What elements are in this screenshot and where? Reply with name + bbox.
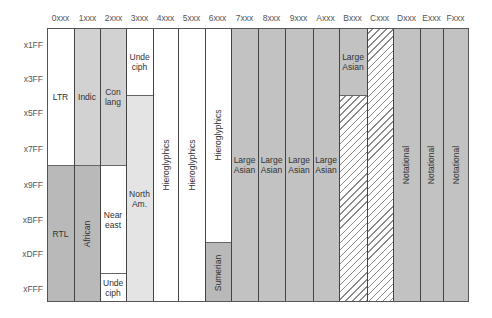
col-header-8: 8xxx [258, 13, 285, 23]
col-header-d: Dxxx [393, 13, 420, 23]
row-label-x5ff: x5FF [24, 108, 43, 118]
row-label-xdff: xDFF [22, 249, 43, 259]
col-header-1: 1xxx [74, 13, 101, 23]
col-header-b: Bxxx [339, 13, 366, 23]
row-label-xbff: xBFF [23, 215, 43, 225]
col-header-e: Exxx [418, 13, 445, 23]
row-label-x9ff: x9FF [24, 180, 43, 190]
row-label-xfff: xFFF [23, 284, 43, 294]
row-label-x7ff: x7FF [24, 144, 43, 154]
col-header-6: 6xxx [204, 13, 231, 23]
row-label-x1ff: x1FF [24, 40, 43, 50]
col-header-0: 0xxx [47, 13, 74, 23]
row-label-x3ff: x3FF [24, 74, 43, 84]
col-header-a: Axxx [312, 13, 339, 23]
grid-frame [47, 28, 469, 302]
col-header-2: 2xxx [100, 13, 127, 23]
col-header-5: 5xxx [178, 13, 205, 23]
col-header-3: 3xxx [126, 13, 153, 23]
col-header-9: 9xxx [285, 13, 312, 23]
col-header-4: 4xxx [152, 13, 179, 23]
col-header-c: Cxxx [366, 13, 393, 23]
col-header-f: Fxxx [442, 13, 469, 23]
col-header-7: 7xxx [231, 13, 258, 23]
